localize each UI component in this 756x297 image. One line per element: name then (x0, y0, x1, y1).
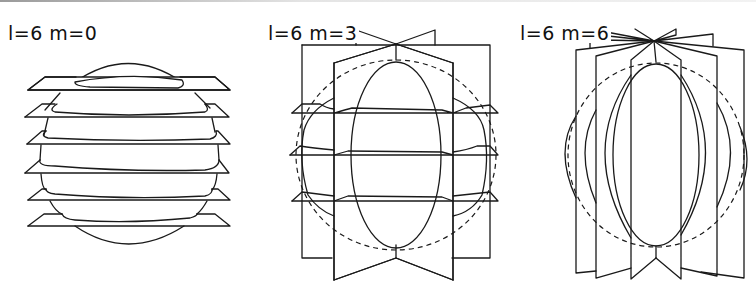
panel-label-m6: l=6 m=6 (520, 23, 611, 43)
diagram-m3-mixed-planes (252, 0, 504, 297)
panel-m6: l=6 m=6 (504, 0, 756, 297)
panel-m3: l=6 m=3 (252, 0, 504, 297)
panel-label-m3: l=6 m=3 (268, 23, 359, 43)
panel-m0: l=6 m=0 (0, 0, 252, 297)
panel-label-m0: l=6 m=0 (8, 23, 99, 43)
diagram-m6-vertical-planes (504, 0, 756, 297)
diagram-m0-horizontal-planes (0, 0, 252, 297)
